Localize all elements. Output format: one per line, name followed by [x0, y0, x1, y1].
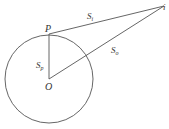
label-si: Si [87, 11, 94, 22]
label-o: O [45, 81, 52, 92]
segment-oi [49, 6, 164, 79]
segment-pi [49, 6, 164, 34]
label-i: i [163, 2, 166, 12]
label-p: P [44, 23, 51, 34]
label-sp: Sp [36, 60, 44, 71]
label-so: So [111, 45, 119, 56]
geometry-diagram: P O i Si So Sp [0, 0, 169, 129]
